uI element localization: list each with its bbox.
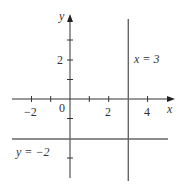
label-y-equals-neg2: y = −2: [15, 145, 50, 159]
xtick-label-4: 4: [144, 105, 150, 119]
y-axis-label: y: [58, 9, 65, 23]
xtick-label-2: 2: [105, 105, 111, 119]
ytick-label-2: 2: [57, 53, 63, 67]
y-axis-arrow-icon: [67, 14, 73, 22]
x-axis-label: x: [166, 102, 173, 116]
origin-label: 0: [59, 101, 65, 115]
label-x-equals-3: x = 3: [133, 52, 159, 66]
coordinate-plane: y x 0 −2 2 4 2 x = 3 y = −2: [0, 0, 184, 189]
xtick-label-neg2: −2: [24, 105, 37, 119]
